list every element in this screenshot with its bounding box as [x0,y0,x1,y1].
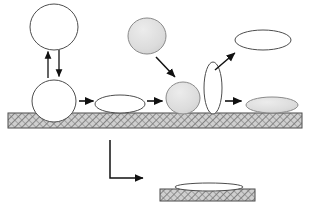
airborne-ellipse-top-right [235,30,291,50]
sessile-ellipse-gray-right [246,97,298,113]
figure-canvas [0,0,310,210]
airborne-circle-gray-top [128,18,166,54]
vertical-ellipse-white [204,62,222,114]
airborne-circle-top-left [30,4,78,50]
thin-film-ellipse-lower [175,183,243,191]
sessile-circle-gray-center [166,82,200,114]
diagram-svg [0,0,310,210]
arrow-diagonal-down-right [156,57,175,77]
sessile-circle-left [32,80,76,122]
flat-ellipse-white-left [95,95,145,113]
arrow-diagonal-up-right [215,53,235,70]
arrow-elbow-down-right [110,140,143,178]
